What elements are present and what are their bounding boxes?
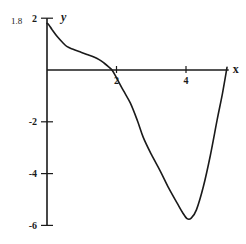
function-plot: 242-2-4-6yx1.8 [0,0,246,244]
function-curve [47,23,227,219]
y-axis-label: y [59,10,67,24]
y-intercept-annotation: 1.8 [11,16,23,26]
y-tick-label: -2 [29,116,37,127]
y-tick-label: -6 [29,220,37,231]
labels: 242-2-4-6yx1.8 [11,10,239,231]
y-tick-label: -4 [29,168,37,179]
x-axis-label: x [233,62,239,76]
x-tick-label: 4 [184,75,189,86]
y-tick-label: 2 [32,13,37,24]
ticks [41,18,186,225]
